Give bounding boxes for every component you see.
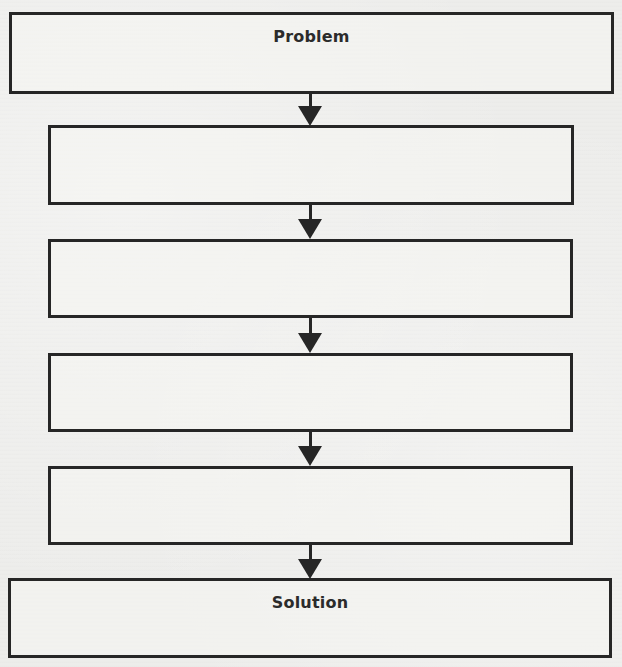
arrow-down-icon bbox=[298, 219, 322, 239]
step-2-box[interactable] bbox=[48, 239, 573, 318]
step-3-box[interactable] bbox=[48, 353, 573, 432]
arrow-down-icon bbox=[298, 446, 322, 466]
arrow-down-icon bbox=[298, 106, 322, 126]
step-1-box[interactable] bbox=[48, 125, 574, 205]
problem-box: Problem bbox=[9, 12, 614, 94]
solution-box: Solution bbox=[8, 578, 612, 658]
solution-label: Solution bbox=[11, 593, 609, 612]
problem-label: Problem bbox=[12, 27, 611, 46]
step-4-box[interactable] bbox=[48, 466, 573, 545]
arrow-down-icon bbox=[298, 559, 322, 579]
arrow-down-icon bbox=[298, 333, 322, 353]
